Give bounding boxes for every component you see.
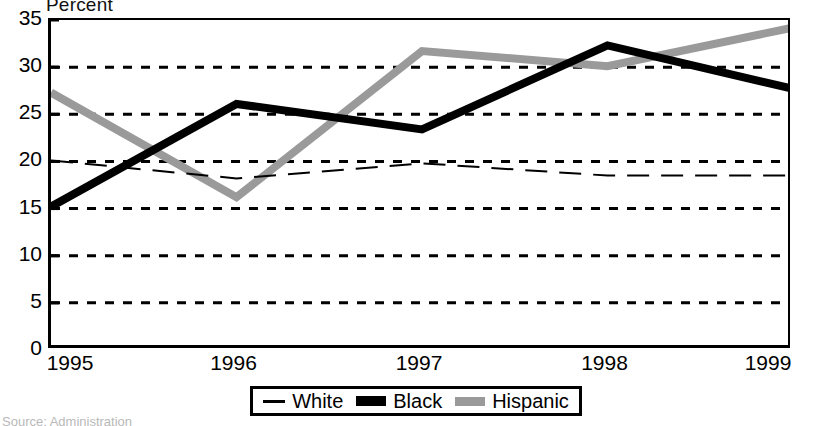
legend-item: Black bbox=[356, 391, 442, 411]
y-tick-label: 20 bbox=[0, 148, 42, 169]
series-line-white bbox=[51, 160, 788, 178]
legend-item: White bbox=[263, 391, 343, 411]
legend-label: Hispanic bbox=[492, 391, 569, 411]
y-tick-label: 35 bbox=[0, 7, 42, 28]
y-tick-label: 5 bbox=[0, 290, 42, 311]
y-axis-title: Percent bbox=[46, 0, 113, 16]
x-tick-label: 1997 bbox=[396, 352, 443, 373]
chart-canvas bbox=[51, 20, 788, 345]
y-tick-label: 25 bbox=[0, 101, 42, 122]
x-tick-label: 1998 bbox=[581, 352, 628, 373]
y-tick-label: 10 bbox=[0, 243, 42, 264]
series-line-black bbox=[51, 45, 788, 206]
source-note: Source: Administration bbox=[2, 414, 132, 426]
y-tick-label: 30 bbox=[0, 54, 42, 75]
plot-area bbox=[48, 18, 790, 348]
legend-swatch-black bbox=[356, 396, 386, 406]
legend-label: White bbox=[292, 391, 343, 411]
legend-swatch-white bbox=[263, 400, 285, 403]
legend-label: Black bbox=[393, 391, 442, 411]
y-tick-label: 15 bbox=[0, 196, 42, 217]
x-tick-label: 1996 bbox=[210, 352, 257, 373]
x-tick-label: 1999 bbox=[745, 352, 792, 373]
legend-item: Hispanic bbox=[455, 391, 569, 411]
legend-swatch-hispanic bbox=[455, 397, 485, 406]
x-tick-label: 1995 bbox=[47, 352, 94, 373]
y-tick-label: 0 bbox=[0, 337, 42, 358]
chart-figure: Percent 05101520253035 19951996199719981… bbox=[0, 0, 815, 426]
chart-legend: WhiteBlackHispanic bbox=[250, 386, 582, 416]
